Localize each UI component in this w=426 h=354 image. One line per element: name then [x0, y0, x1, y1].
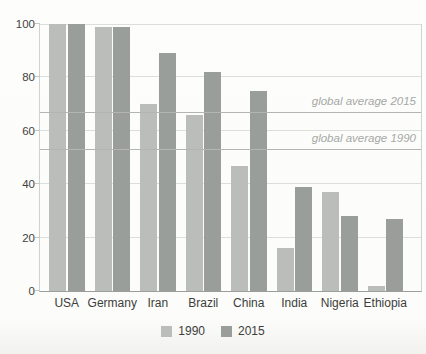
- bar-nigeria-1990: [322, 192, 339, 291]
- y-tickmark-80: [35, 76, 40, 77]
- bar-germany-1990: [95, 27, 112, 291]
- bar-germany-2015: [113, 27, 130, 291]
- y-tick-label-20: 20: [0, 232, 35, 244]
- y-tick-label-60: 60: [0, 125, 35, 137]
- chart-figure: 020406080100USAGermanyIranBrazilChinaInd…: [0, 0, 426, 354]
- bar-ethiopia-2015: [386, 219, 403, 291]
- legend-label-1990: 1990: [178, 324, 205, 338]
- bar-usa-1990: [49, 24, 66, 291]
- legend-swatch-1990: [161, 326, 172, 337]
- bar-nigeria-2015: [341, 216, 358, 291]
- reference-label-global-average-2015: global average 2015: [312, 95, 416, 107]
- y-tickmark-100: [35, 23, 40, 24]
- reference-label-global-average-1990: global average 1990: [312, 132, 416, 144]
- bar-brazil-1990: [186, 115, 203, 291]
- y-tickmark-40: [35, 183, 40, 184]
- y-tickmark-60: [35, 130, 40, 131]
- reference-line-global-average-1990: [40, 149, 421, 150]
- legend-label-2015: 2015: [238, 324, 265, 338]
- bar-india-1990: [277, 248, 294, 291]
- bar-iran-1990: [140, 104, 157, 291]
- y-tick-label-80: 80: [0, 71, 35, 83]
- bar-ethiopia-1990: [368, 286, 385, 291]
- bar-india-2015: [295, 187, 312, 291]
- y-tickmark-0: [35, 290, 40, 291]
- plot-area: 020406080100USAGermanyIranBrazilChinaInd…: [39, 24, 422, 292]
- gridline-y-100: [40, 24, 421, 25]
- y-tickmark-20: [35, 237, 40, 238]
- legend-item-2015: 2015: [221, 324, 265, 338]
- bar-iran-2015: [159, 53, 176, 291]
- reference-line-global-average-2015: [40, 112, 421, 113]
- y-tick-label-100: 100: [0, 18, 35, 30]
- bar-usa-2015: [68, 24, 85, 291]
- legend-swatch-2015: [221, 326, 232, 337]
- bar-brazil-2015: [204, 72, 221, 291]
- x-category-label-ethiopia: Ethiopia: [353, 296, 417, 310]
- bar-china-1990: [231, 166, 248, 291]
- legend-item-1990: 1990: [161, 324, 205, 338]
- y-tick-label-40: 40: [0, 178, 35, 190]
- bar-china-2015: [250, 91, 267, 291]
- y-tick-label-0: 0: [0, 285, 35, 297]
- legend: 19902015: [0, 324, 426, 338]
